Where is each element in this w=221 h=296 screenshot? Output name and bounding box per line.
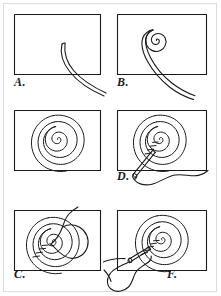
panel-f: F. xyxy=(103,196,221,296)
coil-spiral-c xyxy=(31,115,84,171)
panel-a-label: A. xyxy=(14,76,26,88)
panel-f-label: F. xyxy=(167,268,177,280)
panel-b: B. xyxy=(103,0,221,100)
panel-a: A. xyxy=(0,0,110,100)
panel-d: D. xyxy=(103,96,221,200)
panel-e-figure xyxy=(0,196,115,296)
panel-c-figure xyxy=(0,96,110,196)
panel-d-figure xyxy=(103,96,221,200)
diagram-sheet: A. B. xyxy=(0,0,221,296)
needle-f xyxy=(128,247,151,263)
panel-b-label: B. xyxy=(117,76,129,88)
panel-e: E. xyxy=(0,196,115,296)
panel-f-figure xyxy=(103,196,221,296)
coil-spiral-d xyxy=(133,115,186,171)
panel-c: C. xyxy=(0,96,110,196)
coil-spiral-f xyxy=(135,215,188,271)
panel-d-label: D. xyxy=(117,170,130,182)
